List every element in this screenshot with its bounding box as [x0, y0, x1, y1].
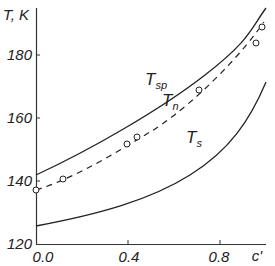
ts-curve — [36, 82, 266, 226]
data-point — [196, 87, 202, 93]
y-tick-label-120: 120 — [7, 235, 33, 252]
y-axis-title: T, K — [3, 6, 30, 23]
x-tick-label-0.0: 0.0 — [33, 248, 55, 265]
chart: 180 160 140 120 0.0 0.4 0.8 T, K c' Tsp … — [0, 0, 275, 266]
x-axis-title: c' — [252, 247, 264, 264]
y-tick-label-160: 160 — [7, 109, 33, 126]
tn-label: Tn — [162, 91, 179, 112]
tn-curve — [36, 22, 264, 190]
tn-data-points — [33, 24, 265, 193]
data-point — [33, 187, 39, 193]
y-tick-label-180: 180 — [7, 46, 33, 63]
data-point — [134, 134, 140, 140]
ts-label: Ts — [186, 128, 202, 149]
x-tick-label-0.8: 0.8 — [209, 248, 231, 265]
x-tick-label-0.4: 0.4 — [119, 248, 140, 265]
data-point — [60, 176, 66, 182]
data-point — [253, 40, 259, 46]
tsp-curve — [36, 8, 266, 175]
tsp-label: Tsp — [145, 70, 167, 91]
data-point — [259, 24, 265, 30]
y-tick-label-140: 140 — [7, 172, 33, 189]
data-point — [124, 141, 130, 147]
